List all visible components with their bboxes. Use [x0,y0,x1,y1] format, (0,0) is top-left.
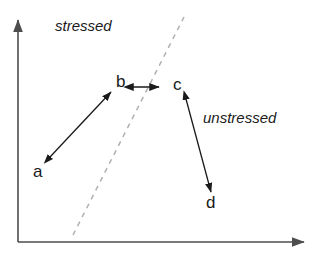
node-label-d: d [206,194,215,211]
node-label-a: a [33,163,42,180]
region-label-stressed: stressed [55,18,112,33]
diagram-svg [0,0,319,255]
boundary-dashed-line [73,17,184,235]
node-label-b: b [116,73,125,90]
arrow-a-to-b [50,92,111,157]
figure-canvas: stressed unstressed a b c d [0,0,319,255]
region-label-unstressed: unstressed [203,110,276,125]
node-label-c: c [173,76,182,93]
